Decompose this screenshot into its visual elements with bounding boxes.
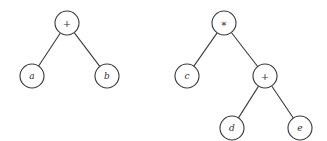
tree-edge [238,86,258,118]
tree-node-operand-e: e [288,116,312,140]
tree-edge [194,33,217,66]
tree-node-operator: + [253,64,277,88]
node-label: c [184,71,189,81]
node-label: a [29,71,34,81]
node-label: + [63,18,71,29]
tree-node-operand-a: a [20,64,44,88]
tree-edge [74,33,100,67]
tree-edge [231,32,257,66]
tree-node-operator: + [55,11,79,35]
node-label: e [297,123,302,133]
node-label: + [261,71,269,82]
node-label: b [104,71,110,81]
tree-edge [39,33,61,66]
node-label: d [229,123,235,133]
tree-node-operand-b: b [95,64,119,88]
node-label: ∗ [221,18,228,29]
tree-node-operator: ∗ [212,11,236,35]
expression-tree-diagram: +ab∗c+de [0,0,327,141]
tree-node-operand-c: c [175,64,199,88]
tree-node-operand-d: d [220,116,244,140]
tree-edge [272,86,294,118]
tree-nodes: +ab∗c+de [20,11,312,140]
